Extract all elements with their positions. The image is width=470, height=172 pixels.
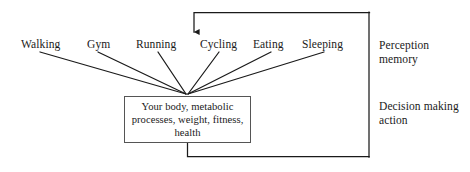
decision-making-line-1: Decision making bbox=[379, 99, 459, 113]
activity-label-eating: Eating bbox=[253, 38, 284, 50]
body-state-box: Your body, metabolic processes, weight, … bbox=[124, 96, 251, 143]
body-box-line-2: processes, weight, fitness, bbox=[132, 113, 244, 126]
diagram-lines bbox=[0, 0, 470, 172]
diagram-canvas: Walking Gym Running Cycling Eating Sleep… bbox=[0, 0, 470, 172]
activity-label-running: Running bbox=[136, 38, 176, 50]
activity-label-walking: Walking bbox=[21, 38, 60, 50]
body-box-line-1: Your body, metabolic bbox=[142, 100, 234, 113]
activity-connector-lines bbox=[40, 52, 324, 94]
activity-label-gym: Gym bbox=[87, 38, 110, 50]
activity-label-cycling: Cycling bbox=[200, 38, 237, 50]
decision-making-action-label: Decision making action bbox=[379, 99, 459, 127]
activity-label-sleeping: Sleeping bbox=[302, 38, 343, 50]
decision-making-line-2: action bbox=[379, 113, 459, 127]
loop-top-and-arrow bbox=[194, 13, 370, 33]
perception-memory-line-1: Perception bbox=[379, 38, 429, 52]
line-sleeping-to-body bbox=[188, 52, 324, 94]
line-cycling-to-body bbox=[188, 52, 219, 94]
body-box-line-3: health bbox=[174, 126, 200, 139]
loop-lower-segment bbox=[188, 143, 370, 157]
perception-memory-line-2: memory bbox=[379, 52, 429, 66]
line-eating-to-body bbox=[188, 52, 271, 94]
line-walking-to-body bbox=[40, 52, 186, 94]
perception-memory-label: Perception memory bbox=[379, 38, 429, 66]
